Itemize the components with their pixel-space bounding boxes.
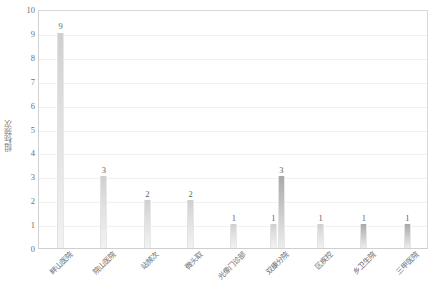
y-axis-tick-labels: 109876543210	[16, 10, 35, 249]
bar-value-label: 1	[232, 214, 236, 223]
bar[interactable]	[100, 176, 107, 248]
x-axis-label: 微头取	[184, 251, 204, 271]
bar-item[interactable]: 1	[317, 11, 324, 248]
bar-group: 9	[39, 11, 82, 248]
bar-value-label: 2	[145, 190, 149, 199]
x-axis-label: 畔山医院	[49, 251, 74, 276]
x-axis-label: 三甲医院	[396, 251, 421, 276]
bar-item[interactable]: 1	[270, 11, 277, 248]
y-axis-tick: 1	[16, 221, 35, 230]
bar-item[interactable]: 2	[144, 11, 151, 248]
bar-value-label: 9	[59, 22, 63, 31]
bar-value-label: 2	[189, 190, 193, 199]
y-axis-title: 组标频次	[2, 96, 16, 176]
x-axis-label: 院山医院	[92, 251, 117, 276]
x-axis-label: 乡卫生院	[352, 251, 377, 276]
y-axis-tick: 9	[16, 30, 35, 39]
y-axis-tick: 10	[16, 6, 35, 15]
bar-value-label: 3	[102, 166, 106, 175]
bar-group: 3	[82, 11, 125, 248]
bar[interactable]	[270, 224, 277, 248]
bar-item[interactable]: 1	[230, 11, 237, 248]
bar-item[interactable]: 9	[57, 11, 64, 248]
x-axis-label: 区疾控	[314, 251, 334, 271]
y-axis-tick: 6	[16, 101, 35, 110]
bar[interactable]	[404, 224, 411, 248]
bar-value-label: 1	[319, 214, 323, 223]
x-axis-label: 双康分院	[266, 251, 291, 276]
bar-group: 1	[342, 11, 385, 248]
bar[interactable]	[278, 176, 285, 248]
bar-value-label: 1	[405, 214, 409, 223]
x-axis-label: 站频次	[140, 251, 160, 271]
bar[interactable]	[360, 224, 367, 248]
bar-item[interactable]: 3	[278, 11, 285, 248]
y-axis-tick: 2	[16, 197, 35, 206]
bar-group: 1	[212, 11, 255, 248]
bar-item[interactable]: 2	[187, 11, 194, 248]
bar-value-label: 3	[279, 166, 283, 175]
bar-value-label: 1	[271, 214, 275, 223]
bar-item[interactable]: 1	[404, 11, 411, 248]
bar-item[interactable]: 1	[360, 11, 367, 248]
bar-chart: 组标频次 109876543210 9322113111 畔山医院院山医院站频次…	[0, 0, 443, 303]
bar-value-label: 1	[362, 214, 366, 223]
y-axis-tick: 4	[16, 149, 35, 158]
bar-group: 1	[386, 11, 429, 248]
y-axis-tick: 7	[16, 77, 35, 86]
bar[interactable]	[230, 224, 237, 248]
bars-layer: 9322113111	[39, 11, 427, 248]
x-axis-label: 光像门诊部	[217, 251, 247, 281]
bar-item[interactable]: 3	[100, 11, 107, 248]
y-axis-tick: 0	[16, 245, 35, 254]
bar-group: 2	[126, 11, 169, 248]
y-axis-tick: 5	[16, 125, 35, 134]
bar-group: 1	[299, 11, 342, 248]
bar[interactable]	[187, 200, 194, 248]
bar-group: 13	[256, 11, 299, 248]
x-axis-category-labels: 畔山医院院山医院站频次微头取光像门诊部双康分院区疾控乡卫生院三甲医院	[38, 251, 428, 303]
bar[interactable]	[317, 224, 324, 248]
bar[interactable]	[57, 33, 64, 248]
plot-area: 9322113111	[38, 10, 428, 249]
bar[interactable]	[144, 200, 151, 248]
bar-group: 2	[169, 11, 212, 248]
y-axis-tick: 8	[16, 54, 35, 63]
y-axis-tick: 3	[16, 173, 35, 182]
